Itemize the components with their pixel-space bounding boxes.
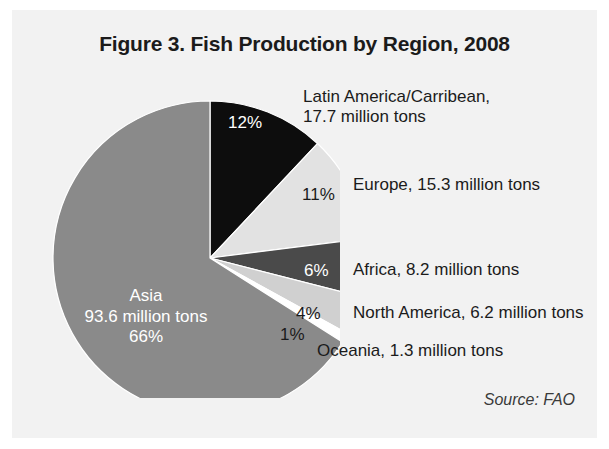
legend-label-europe: Europe, 15.3 million tons bbox=[353, 175, 540, 195]
figure-panel: Figure 3. Fish Production by Region, 200… bbox=[12, 10, 597, 438]
legend-label-latin-america-line2: 17.7 million tons bbox=[303, 107, 490, 127]
percent-label-latin-america: 12% bbox=[228, 113, 262, 133]
percent-label-north-america: 4% bbox=[296, 304, 321, 324]
percent-label-africa: 6% bbox=[304, 261, 329, 281]
asia-region-percent: 66% bbox=[66, 327, 226, 348]
pie-chart: Asia 93.6 million tons 66% bbox=[20, 68, 340, 398]
asia-region-name: Asia bbox=[66, 286, 226, 307]
legend-label-oceania: Oceania, 1.3 million tons bbox=[317, 341, 503, 361]
legend-label-latin-america: Latin America/Carribean, 17.7 million to… bbox=[303, 87, 490, 127]
slice-label-asia: Asia 93.6 million tons 66% bbox=[66, 286, 226, 348]
source-attribution: Source: FAO bbox=[484, 391, 575, 409]
legend-label-africa: Africa, 8.2 million tons bbox=[353, 260, 519, 280]
asia-region-value: 93.6 million tons bbox=[66, 307, 226, 328]
legend-label-latin-america-line1: Latin America/Carribean, bbox=[303, 87, 490, 107]
figure-image: Figure 3. Fish Production by Region, 200… bbox=[0, 0, 609, 449]
percent-label-europe: 11% bbox=[302, 185, 335, 205]
pie-slice-group bbox=[53, 101, 340, 398]
legend-label-north-america: North America, 6.2 million tons bbox=[353, 303, 584, 323]
pie-chart-svg bbox=[20, 68, 340, 398]
percent-label-oceania: 1% bbox=[280, 325, 305, 345]
page-title: Figure 3. Fish Production by Region, 200… bbox=[12, 32, 597, 56]
